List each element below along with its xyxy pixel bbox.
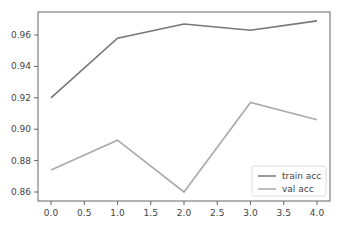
line-chart: 0.860.880.900.920.940.96 0.00.51.01.52.0…	[0, 0, 341, 228]
y-tick-label: 0.94	[11, 61, 31, 71]
y-axis: 0.860.880.900.920.940.96	[11, 30, 38, 197]
legend-val-label: val acc	[282, 184, 314, 194]
x-tick-label: 1.5	[144, 208, 158, 218]
y-tick-label: 0.92	[11, 93, 31, 103]
y-tick-label: 0.86	[11, 187, 31, 197]
legend: train acc val acc	[252, 166, 326, 196]
x-tick-label: 4.0	[310, 208, 325, 218]
y-tick-label: 0.96	[11, 30, 31, 40]
x-tick-label: 0.0	[44, 208, 59, 218]
x-axis: 0.00.51.01.52.02.53.03.54.0	[44, 201, 325, 218]
y-tick-label: 0.90	[11, 124, 31, 134]
x-tick-label: 3.5	[277, 208, 291, 218]
x-tick-label: 2.5	[210, 208, 224, 218]
x-tick-label: 2.0	[177, 208, 192, 218]
y-tick-label: 0.88	[11, 156, 31, 166]
legend-train-label: train acc	[282, 171, 321, 181]
x-tick-label: 3.0	[243, 208, 258, 218]
x-tick-label: 1.0	[110, 208, 125, 218]
x-tick-label: 0.5	[77, 208, 91, 218]
